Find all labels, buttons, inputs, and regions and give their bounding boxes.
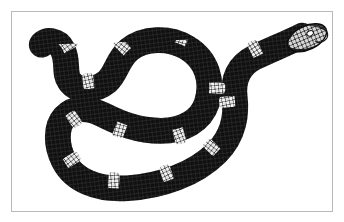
coil-eyelet [140, 70, 185, 115]
illustration-plate [12, 12, 332, 211]
illustration-frame [11, 11, 333, 212]
snake-illustration-svg [12, 12, 332, 211]
screenshot-canvas [0, 0, 344, 222]
